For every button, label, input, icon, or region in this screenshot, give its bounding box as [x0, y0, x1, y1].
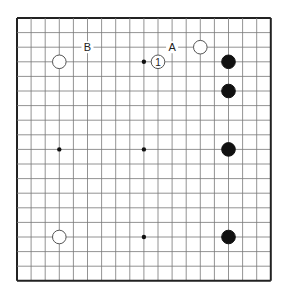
white-stone [53, 55, 67, 69]
black-stone [222, 143, 236, 157]
move-number: 1 [155, 57, 161, 68]
star-point [142, 60, 146, 64]
star-point [57, 147, 61, 151]
white-stone [194, 40, 208, 54]
black-stone [222, 230, 236, 244]
go-board: BA 1 [0, 0, 288, 303]
star-point [142, 235, 146, 239]
black-stone [222, 55, 236, 69]
black-stone [222, 84, 236, 98]
white-stone: 1 [151, 55, 165, 69]
white-stone [53, 230, 67, 244]
star-point [142, 147, 146, 151]
point-label-b: B [84, 41, 91, 53]
point-label-a: A [168, 41, 176, 53]
